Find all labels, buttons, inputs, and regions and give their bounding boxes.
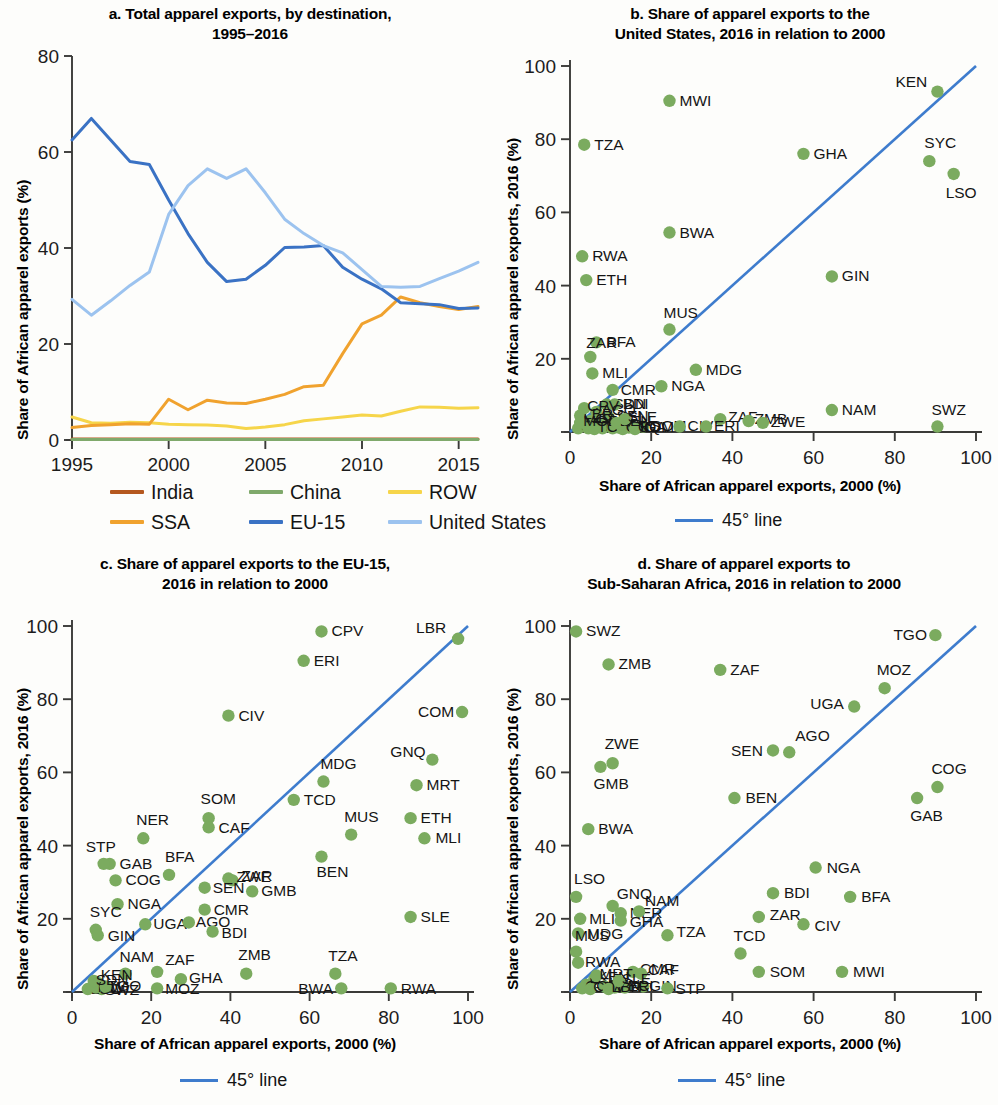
scatter-point[interactable]: ZWE — [605, 735, 639, 769]
scatter-point[interactable]: ZAF — [151, 951, 194, 978]
scatter-point[interactable]: GIN — [92, 927, 136, 944]
scatter-point[interactable]: BEN — [728, 789, 777, 806]
scatter-dot-cpv[interactable] — [315, 625, 327, 637]
scatter-dot-gin[interactable] — [92, 929, 104, 941]
scatter-dot-ner[interactable] — [137, 832, 149, 844]
scatter-point[interactable]: ERI — [297, 652, 339, 669]
scatter-point[interactable]: NER — [136, 811, 169, 844]
scatter-dot-sen[interactable] — [767, 744, 779, 756]
scatter-dot-eth[interactable] — [404, 812, 416, 824]
scatter-dot-nam[interactable] — [826, 404, 838, 416]
scatter-dot-mdg[interactable] — [317, 775, 329, 787]
scatter-dot-zmb[interactable] — [602, 658, 614, 670]
scatter-point[interactable]: UGA — [139, 915, 187, 932]
scatter-dot-bdi[interactable] — [206, 925, 218, 937]
scatter-point[interactable]: MOZ — [151, 980, 200, 997]
scatter-dot-zaf[interactable] — [151, 966, 163, 978]
scatter-dot-eth[interactable] — [580, 274, 592, 286]
scatter-dot-zmb[interactable] — [240, 968, 252, 980]
scatter-point[interactable]: COM — [418, 703, 468, 720]
scatter-point[interactable]: BWA — [663, 224, 715, 241]
scatter-dot-mdg[interactable] — [690, 364, 702, 376]
scatter-dot-mus[interactable] — [663, 323, 675, 335]
scatter-dot-ken[interactable] — [931, 85, 943, 97]
scatter-point[interactable]: NAM — [826, 401, 877, 418]
scatter-dot-bfa[interactable] — [844, 891, 856, 903]
scatter-dot-ago[interactable] — [183, 916, 195, 928]
scatter-point[interactable]: STP — [661, 980, 705, 997]
scatter-dot-gin[interactable] — [826, 270, 838, 282]
scatter-dot-zaf[interactable] — [714, 664, 726, 676]
scatter-point[interactable]: MUS — [344, 808, 378, 841]
scatter-dot-tgo[interactable] — [929, 629, 941, 641]
scatter-point[interactable]: TCD — [288, 791, 336, 808]
scatter-point[interactable]: TZA — [328, 947, 358, 980]
scatter-point[interactable]: MRT — [410, 776, 460, 793]
scatter-dot-cog[interactable] — [931, 781, 943, 793]
scatter-point[interactable]: MWI — [663, 92, 711, 109]
scatter-dot-cog[interactable] — [109, 874, 121, 886]
scatter-dot-uga[interactable] — [139, 918, 151, 930]
scatter-dot-lso[interactable] — [947, 168, 959, 180]
scatter-dot-tcd[interactable] — [288, 794, 300, 806]
scatter-dot-mus[interactable] — [345, 828, 357, 840]
scatter-dot-civ[interactable] — [222, 709, 234, 721]
scatter-point[interactable]: MLI — [586, 364, 628, 381]
scatter-dot-mli[interactable] — [574, 913, 586, 925]
scatter-dot-uga[interactable] — [848, 700, 860, 712]
scatter-point[interactable]: BDI — [206, 924, 247, 941]
legend-item-china[interactable]: China — [249, 477, 384, 507]
scatter-dot-moz[interactable] — [878, 682, 890, 694]
scatter-point[interactable]: ZMB — [238, 946, 271, 980]
scatter-point[interactable]: UGA — [810, 695, 860, 713]
scatter-point[interactable]: MDG — [690, 361, 742, 378]
scatter-point[interactable]: MDG — [317, 755, 356, 788]
scatter-point[interactable]: SWZ — [931, 401, 966, 433]
scatter-dot-tcd[interactable] — [734, 947, 746, 959]
scatter-point[interactable]: SOM — [753, 963, 806, 980]
scatter-dot-bwa[interactable] — [582, 823, 594, 835]
scatter-point[interactable]: RWA — [576, 247, 628, 264]
scatter-dot-eri[interactable] — [297, 655, 309, 667]
scatter-dot-gmb[interactable] — [246, 885, 258, 897]
scatter-point[interactable]: CIV — [797, 917, 841, 934]
scatter-dot-rwa[interactable] — [572, 957, 584, 969]
scatter-dot-som[interactable] — [753, 966, 765, 978]
scatter-point[interactable]: NGA — [655, 377, 705, 394]
scatter-dot-ben[interactable] — [315, 850, 327, 862]
scatter-point[interactable]: SYC — [923, 134, 956, 167]
scatter-point[interactable]: GNQ — [390, 743, 438, 766]
scatter-dot-mus[interactable] — [570, 946, 582, 958]
scatter-point[interactable]: TZA — [578, 136, 624, 153]
scatter-dot-stp[interactable] — [661, 982, 673, 994]
scatter-dot-bwa[interactable] — [663, 226, 675, 238]
scatter-point[interactable]: BEN — [315, 850, 348, 879]
scatter-point[interactable]: SEN — [731, 742, 779, 759]
scatter-dot-zar[interactable] — [584, 351, 596, 363]
scatter-dot-zar[interactable] — [753, 911, 765, 923]
scatter-point[interactable]: RWA — [385, 980, 437, 997]
scatter-point[interactable]: GAB — [910, 792, 943, 824]
scatter-point[interactable]: MLI — [574, 910, 615, 927]
scatter-point[interactable]: SEN — [198, 879, 244, 896]
scatter-point[interactable]: SWZ — [570, 622, 621, 639]
scatter-point[interactable]: ZAR — [584, 334, 617, 363]
scatter-point[interactable]: BDI — [767, 884, 810, 901]
scatter-dot-civ[interactable] — [673, 420, 685, 432]
scatter-dot-swz[interactable] — [570, 625, 582, 637]
scatter-point[interactable]: MLI — [418, 829, 461, 846]
scatter-dot-bwa[interactable] — [335, 982, 347, 994]
scatter-point[interactable]: GHA — [797, 145, 847, 162]
scatter-dot-zwe[interactable] — [757, 417, 769, 429]
scatter-dot-mwi[interactable] — [663, 95, 675, 107]
scatter-dot-stp[interactable] — [97, 858, 109, 870]
scatter-dot-lbr[interactable] — [452, 633, 464, 645]
legend-item-ssa[interactable]: SSA — [110, 507, 245, 537]
scatter-dot-caf[interactable] — [202, 821, 214, 833]
scatter-dot-gha[interactable] — [797, 148, 809, 160]
scatter-point[interactable]: GIN — [826, 267, 870, 284]
scatter-point[interactable]: BWA — [298, 980, 347, 997]
scatter-dot-zwe[interactable] — [606, 757, 618, 769]
scatter-dot-syc[interactable] — [923, 155, 935, 167]
scatter-dot-tza[interactable] — [578, 138, 590, 150]
